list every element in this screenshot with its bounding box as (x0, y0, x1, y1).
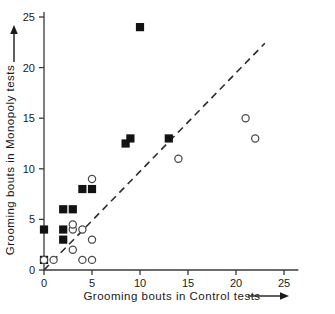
data-point-open-circle (50, 256, 57, 263)
data-point-filled-square (40, 225, 48, 233)
data-point-open-circle (175, 155, 182, 162)
y-tick-label: 20 (23, 62, 35, 74)
data-point-open-circle (79, 226, 86, 233)
data-point-open-circle (69, 221, 76, 228)
data-markers (40, 23, 259, 264)
data-point-open-circle (79, 256, 86, 263)
x-axis-title: Grooming bouts in Control tests (83, 290, 260, 302)
x-tick-label: 20 (230, 277, 242, 289)
data-point-open-circle (40, 256, 47, 263)
up-arrow-icon (10, 25, 18, 34)
y-tick-label: 15 (23, 112, 35, 124)
data-point-filled-square (69, 205, 77, 213)
y-tick-label: 0 (29, 264, 35, 276)
data-point-filled-square (59, 205, 67, 213)
data-point-open-circle (88, 236, 95, 243)
y-axis-title: Grooming bouts in Monopoly tests (4, 65, 16, 256)
x-tick-label: 15 (182, 277, 194, 289)
identity-reference-line (44, 43, 265, 270)
plot-canvas: 05101520250510152025 Grooming bouts in C… (0, 0, 335, 314)
data-point-filled-square (126, 134, 134, 142)
y-tick-label: 25 (23, 11, 35, 23)
x-tick-label: 25 (278, 277, 290, 289)
data-point-open-circle (252, 135, 259, 142)
data-point-filled-square (59, 225, 67, 233)
scatter-plot-figure: 05101520250510152025 Grooming bouts in C… (0, 0, 335, 314)
data-point-filled-square (88, 185, 96, 193)
data-point-open-circle (242, 115, 249, 122)
data-point-filled-square (165, 134, 173, 142)
data-point-open-circle (88, 256, 95, 263)
data-point-filled-square (136, 23, 144, 31)
y-tick-label: 10 (23, 163, 35, 175)
x-tick-label: 5 (89, 277, 95, 289)
data-point-open-circle (88, 175, 95, 182)
right-arrow-icon (280, 292, 289, 300)
y-tick-label: 5 (29, 213, 35, 225)
identity-line (44, 43, 265, 270)
data-point-filled-square (59, 236, 67, 244)
data-point-filled-square (78, 185, 86, 193)
data-point-open-circle (69, 246, 76, 253)
x-tick-label: 10 (134, 277, 146, 289)
axes: 05101520250510152025 (23, 11, 299, 289)
x-tick-label: 0 (41, 277, 47, 289)
